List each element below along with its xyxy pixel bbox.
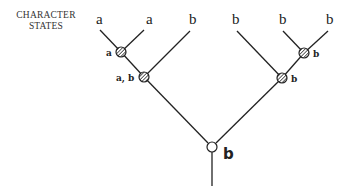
tip-label-2: a: [146, 11, 153, 27]
hatched-node-icon: [139, 72, 149, 82]
internal-nodes: [116, 47, 309, 152]
hatched-node-icon: [277, 73, 287, 83]
branch-root-n2: [144, 77, 208, 143]
hatched-node-icon: [116, 47, 126, 57]
root-label: b: [223, 145, 234, 163]
tip-label-1: a: [96, 11, 103, 27]
tip-label-6: b: [326, 11, 334, 27]
branch-n2-tip3: [144, 31, 190, 77]
tree-branches: [100, 30, 328, 186]
branch-root-n3: [216, 78, 282, 143]
branch-n3-tip4: [237, 31, 282, 78]
hatched-node-icon: [299, 48, 309, 58]
node-label-n3: b: [291, 74, 297, 84]
node-label-n4: b: [313, 49, 319, 59]
root-open-node-icon: [207, 142, 217, 152]
node-label-n2: a, b: [116, 73, 134, 84]
tip-label-3: b: [189, 11, 197, 27]
phylogenetic-tree: a a b b b b a a, b b b b: [0, 0, 345, 192]
tip-label-4: b: [232, 11, 240, 27]
tip-label-5: b: [279, 11, 287, 27]
tip-labels: a a b b b b: [96, 11, 334, 27]
node-label-n1: a: [106, 48, 112, 58]
